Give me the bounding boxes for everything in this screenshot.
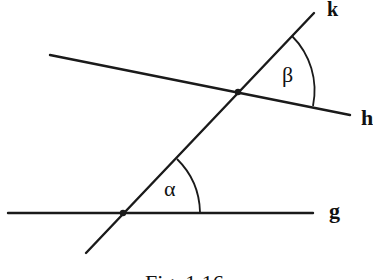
line-h [50,55,350,115]
geometry-figure: k h g α β Fig. 1.16 [0,0,373,280]
intersection-point-kh [235,89,241,95]
line-k [86,13,314,253]
intersection-point-kg [120,210,126,216]
label-alpha: α [164,176,176,201]
label-h: h [361,105,373,130]
label-k: k [327,0,339,20]
angle-beta-arc [292,36,315,106]
label-beta: β [282,62,293,87]
angle-alpha-arc [177,159,200,212]
figure-caption: Fig. 1.16 [145,270,224,280]
label-g: g [329,198,340,223]
